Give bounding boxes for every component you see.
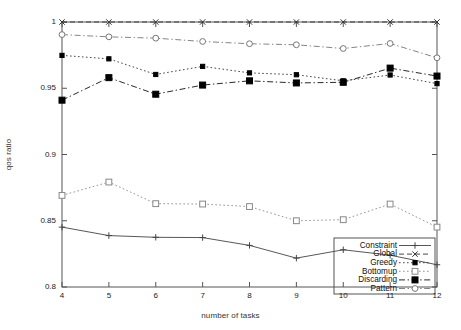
chart-legend: ConstraintGlobalGreedyBottomupDiscarding…: [334, 241, 435, 293]
y-axis-title: qos ratio: [4, 125, 13, 185]
y-tick-label: 1: [28, 17, 56, 26]
data-series-group: [59, 19, 440, 268]
y-tick-label: 0.95: [28, 83, 56, 92]
y-tick-label: 0.85: [28, 216, 56, 225]
x-axis-title: number of tasks: [0, 311, 461, 320]
y-tick-label: 0.9: [28, 150, 56, 159]
x-tick-label: 6: [146, 291, 166, 300]
series-pattern: [59, 32, 440, 61]
legend-key-pattern-icon: [401, 284, 435, 293]
x-tick-label: 9: [286, 291, 306, 300]
x-tick-label: 4: [52, 291, 72, 300]
series-bottomup: [59, 179, 440, 230]
legend-item-pattern[interactable]: Pattern: [334, 284, 435, 293]
legend-item-global[interactable]: Global: [334, 250, 435, 259]
legend-item-constraint[interactable]: Constraint: [334, 241, 435, 250]
x-tick-label: 7: [193, 291, 213, 300]
legend-label: Pattern: [371, 284, 401, 293]
x-tick-label: 8: [240, 291, 260, 300]
y-tick-label: 0.8: [28, 282, 56, 291]
legend-item-bottomup[interactable]: Bottomup: [334, 267, 435, 276]
legend-item-greedy[interactable]: Greedy: [334, 258, 435, 267]
x-tick-label: 5: [99, 291, 119, 300]
chart-figure: 0.80.850.90.951 456789101112 number of t…: [0, 0, 461, 330]
legend-item-discarding[interactable]: Discarding: [334, 275, 435, 284]
